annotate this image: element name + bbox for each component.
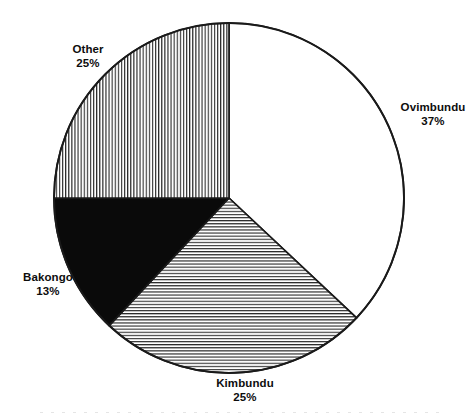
pie-label-bakongo: Bakongo 13%	[2, 270, 94, 298]
pie-label-other-value: 25%	[44, 56, 132, 70]
pie-label-bakongo-name: Bakongo	[2, 270, 94, 284]
pie-label-ovimbundu: Ovimbundu 37%	[390, 100, 476, 128]
pie-chart: Ovimbundu 37% Kimbundu 25% Bakongo 13% O…	[0, 0, 476, 420]
pie-label-bakongo-value: 13%	[2, 284, 94, 298]
scan-artifact-line	[40, 412, 440, 413]
pie-label-kimbundu: Kimbundu 25%	[183, 376, 307, 404]
pie-label-kimbundu-value: 25%	[183, 390, 307, 404]
pie-label-other-name: Other	[44, 42, 132, 56]
pie-label-other: Other 25%	[44, 42, 132, 70]
pie-label-ovimbundu-value: 37%	[390, 114, 476, 128]
pie-label-ovimbundu-name: Ovimbundu	[390, 100, 476, 114]
pie-label-kimbundu-name: Kimbundu	[183, 376, 307, 390]
